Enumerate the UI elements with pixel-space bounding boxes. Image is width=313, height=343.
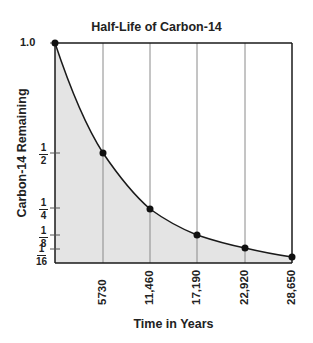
numerator: 1	[41, 143, 47, 153]
y-axis-title: Carbon-14 Remaining	[15, 88, 29, 217]
numerator: 1	[39, 244, 45, 254]
area-fill	[55, 43, 292, 263]
numerator: 1	[41, 226, 47, 236]
x-axis-title: Time in Years	[55, 317, 292, 331]
x-tick-label-17190: 17,190	[190, 270, 202, 305]
plot-area	[0, 0, 313, 343]
denominator: 4	[41, 211, 47, 221]
x-tick-label-22920: 22,920	[238, 270, 250, 305]
y-tick-label-sixteenth: 116	[36, 244, 47, 267]
denominator: 16	[36, 257, 47, 267]
numerator: 1	[41, 198, 47, 208]
x-tick-label-11460: 11,460	[143, 270, 155, 305]
x-tick-label-28650: 28,650	[285, 270, 297, 305]
y-tick-label-half: 12	[39, 143, 48, 166]
denominator: 2	[41, 156, 47, 166]
y-tick-label-1: 1.0	[20, 36, 35, 48]
y-tick-label-quarter: 14	[39, 198, 48, 221]
x-tick-label-5730: 5730	[96, 279, 108, 305]
